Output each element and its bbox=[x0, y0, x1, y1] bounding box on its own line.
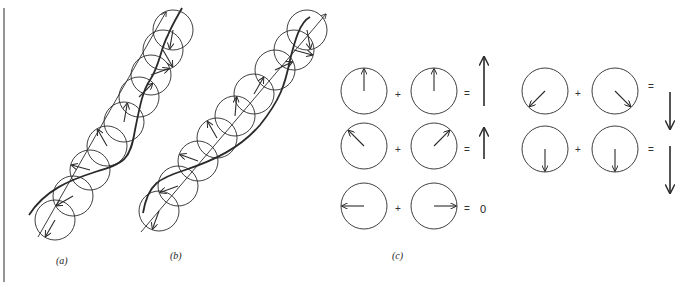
plus-sign: + bbox=[575, 88, 581, 99]
equals-sign: = bbox=[464, 144, 470, 155]
helix-curve bbox=[29, 8, 182, 215]
plus-sign: + bbox=[395, 144, 401, 155]
row3-right-arrow-icon bbox=[615, 91, 631, 107]
axis-line bbox=[38, 12, 166, 237]
equals-sign: = bbox=[464, 88, 470, 99]
phasor-diagram bbox=[0, 0, 693, 282]
phasor-3-arrow-icon bbox=[98, 130, 108, 146]
row3-left-arrow-icon bbox=[529, 91, 545, 107]
phasor-7-arrow-icon bbox=[294, 50, 312, 55]
helix-curve bbox=[143, 17, 310, 213]
phasor-2-arrow-icon bbox=[72, 165, 90, 170]
label-c: (c) bbox=[392, 250, 403, 261]
phasor-8-arrow-icon bbox=[170, 30, 173, 49]
axis-line bbox=[141, 14, 326, 232]
plus-sign: + bbox=[395, 89, 401, 100]
result-zero: 0 bbox=[480, 203, 486, 215]
panel-a-helix bbox=[29, 8, 193, 240]
label-a: (a) bbox=[56, 255, 68, 266]
equals-sign: = bbox=[648, 81, 654, 92]
phasor-2-arrow-icon bbox=[180, 155, 198, 161]
equals-sign: = bbox=[648, 144, 654, 155]
phasor-3-arrow-icon bbox=[208, 122, 218, 138]
plus-sign: + bbox=[575, 144, 581, 155]
row1-right-arrow-icon bbox=[434, 130, 450, 146]
row1-left-arrow-icon bbox=[348, 130, 364, 146]
panel-b-helix bbox=[139, 10, 327, 232]
plus-sign: + bbox=[395, 203, 401, 214]
label-b: (b) bbox=[170, 250, 182, 261]
equals-sign: = bbox=[464, 203, 470, 214]
panel-c-phasor-sums bbox=[341, 57, 670, 229]
phasor-0-arrow-icon bbox=[46, 220, 56, 236]
phasor-0-arrow-icon bbox=[153, 211, 159, 229]
